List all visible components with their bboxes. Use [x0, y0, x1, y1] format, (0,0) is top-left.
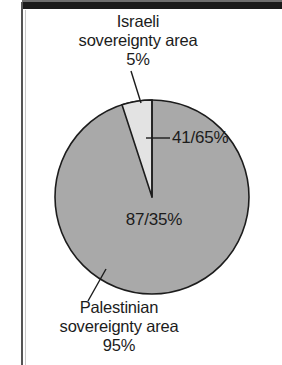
slice-annotation-israeli: 41/65%	[172, 128, 272, 147]
slice-label-israeli: Israeli sovereignty area 5%	[48, 12, 228, 68]
pie-chart-figure: Israeli sovereignty area 5% 41/65% 87/35…	[0, 0, 282, 365]
slice-annotation-palestinian: 87/35%	[104, 210, 204, 229]
leader-line-israeli	[131, 71, 141, 103]
slice-label-palestinian: Palestinian sovereignty area 95%	[14, 298, 224, 354]
